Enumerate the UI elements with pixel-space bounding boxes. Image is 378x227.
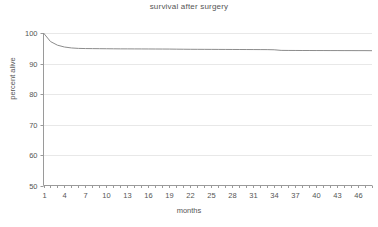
svg-text:10: 10 xyxy=(102,191,110,200)
svg-text:100: 100 xyxy=(25,29,38,38)
svg-text:43: 43 xyxy=(333,191,341,200)
survival-chart: survival after surgery percent alive 506… xyxy=(0,0,378,227)
svg-text:25: 25 xyxy=(207,191,215,200)
x-axis-label: months xyxy=(0,206,378,215)
svg-text:40: 40 xyxy=(312,191,320,200)
gridlines xyxy=(44,34,373,156)
svg-text:60: 60 xyxy=(29,151,37,160)
svg-text:34: 34 xyxy=(270,191,278,200)
svg-text:80: 80 xyxy=(29,90,37,99)
svg-text:1: 1 xyxy=(42,191,46,200)
svg-text:7: 7 xyxy=(83,191,87,200)
svg-text:70: 70 xyxy=(29,121,37,130)
svg-text:19: 19 xyxy=(165,191,173,200)
svg-text:13: 13 xyxy=(123,191,131,200)
y-tick-labels: 5060708090100 xyxy=(25,29,38,191)
svg-text:46: 46 xyxy=(354,191,362,200)
x-tick-labels: 14710131619222528313437404346 xyxy=(42,191,362,200)
svg-text:22: 22 xyxy=(186,191,194,200)
svg-text:90: 90 xyxy=(29,60,37,69)
svg-text:50: 50 xyxy=(29,182,37,191)
svg-text:28: 28 xyxy=(228,191,236,200)
svg-text:31: 31 xyxy=(249,191,257,200)
survival-curve xyxy=(44,33,373,51)
svg-text:37: 37 xyxy=(291,191,299,200)
svg-text:4: 4 xyxy=(62,191,66,200)
plot-area: 5060708090100 14710131619222528313437404… xyxy=(0,0,378,227)
svg-text:16: 16 xyxy=(144,191,152,200)
